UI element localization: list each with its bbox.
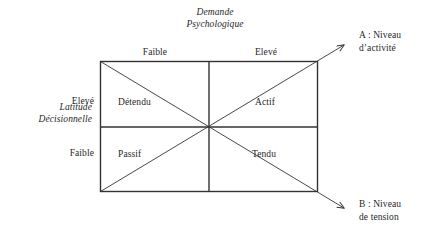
diagonal-b-tension-arrow	[101, 62, 345, 209]
demand-level-eleve-label: Elevé	[255, 47, 277, 59]
demand-axis-title-line1: Demande	[196, 7, 233, 17]
diagonal-b-caption: B : Niveaude tension	[359, 198, 401, 224]
latitude-axis-title-line2: Décisionnelle	[38, 114, 92, 124]
diagonal-a-caption-line2: d’activité	[359, 43, 396, 53]
diagonal-b-caption-line2: de tension	[359, 212, 399, 222]
diagonal-a-activity-arrow	[101, 45, 345, 192]
diagonal-b-caption-line1: B : Niveau	[359, 199, 401, 209]
quadrant-label-actif: Actif	[255, 97, 275, 109]
karasek-model-diagram: DemandePsychologique LatitudeDécisionnel…	[0, 0, 421, 238]
demand-level-faible-label: Faible	[143, 47, 167, 59]
quadrant-label-passif: Passif	[118, 149, 141, 161]
diagonal-a-caption: A : Niveaud’activité	[359, 29, 401, 55]
demand-axis-title-line2: Psychologique	[186, 19, 243, 29]
demand-axis-title: DemandePsychologique	[186, 6, 243, 30]
diagonal-a-caption-line1: A : Niveau	[359, 30, 401, 40]
latitude-level-faible-label: Faible	[70, 148, 94, 160]
quadrant-label-tendu: Tendu	[252, 149, 276, 161]
latitude-level-eleve-label: Elevé	[72, 96, 94, 108]
quadrant-label-detendu: Détendu	[118, 97, 151, 109]
